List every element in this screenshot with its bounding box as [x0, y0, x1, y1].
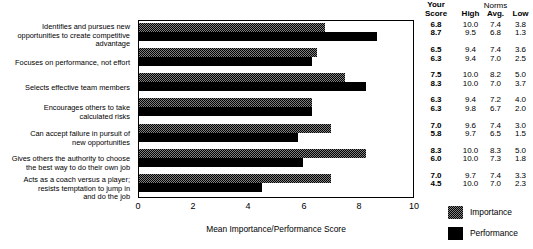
- category-label-2: Selects effective team members: [0, 84, 130, 93]
- cell-norm-low-performance-2: 3.7: [508, 80, 533, 88]
- cell-your-score-performance-2: 8.3: [416, 80, 456, 88]
- bar-importance-4[interactable]: [139, 124, 331, 133]
- cell-norm-avg-performance-5: 7.3: [483, 155, 508, 163]
- bar-group-1: [139, 48, 413, 73]
- category-label-2-line1: Selects effective team members: [0, 84, 130, 93]
- cell-norm-high-performance-3: 9.8: [458, 105, 483, 113]
- table-row: 6.810.07.43.88.79.56.81.3: [416, 21, 533, 46]
- cell-norm-low-performance-1: 2.5: [508, 55, 533, 63]
- cell-norm-avg-performance-4: 6.5: [483, 130, 508, 138]
- cell-norm-avg-performance-6: 7.0: [483, 180, 508, 188]
- cell-your-score-performance-3: 6.3: [416, 105, 456, 113]
- table-row: 6.59.47.43.66.39.47.02.5: [416, 46, 533, 71]
- cell-your-score-performance-5: 6.0: [416, 155, 456, 163]
- category-label-6-line3: and do the job: [0, 193, 130, 202]
- x-tick-0: 0: [126, 201, 150, 211]
- bar-importance-0[interactable]: [139, 23, 325, 32]
- cell-norm-low-performance-0: 1.3: [508, 29, 533, 37]
- x-axis-label: Mean Importance/Performance Score: [138, 224, 414, 234]
- category-label-6: Acts as a coach versus a player; resists…: [0, 176, 130, 202]
- cell-norm-high-performance-5: 10.0: [458, 155, 483, 163]
- category-label-4: Can accept failure in pursuit of new opp…: [0, 130, 130, 147]
- chart-plot-area: [138, 20, 414, 198]
- x-tick-6: 6: [292, 201, 316, 211]
- table-header-avg: Avg.: [483, 9, 508, 18]
- table-row: 7.09.77.43.34.510.07.02.3: [416, 172, 533, 197]
- bar-group-4: [139, 124, 413, 149]
- x-tick-8: 8: [347, 201, 371, 211]
- category-label-1: Focuses on performance, not effort: [0, 59, 130, 68]
- table-header-high: High: [458, 9, 483, 18]
- cell-your-score-performance-4: 5.8: [416, 130, 456, 138]
- category-label-5-line2: the best way to do their own job: [0, 164, 130, 173]
- category-label-3: Encourages others to take calculated ris…: [0, 104, 130, 121]
- cell-your-score-performance-1: 6.3: [416, 55, 456, 63]
- cell-norm-low-performance-6: 2.3: [508, 180, 533, 188]
- bar-importance-3[interactable]: [139, 98, 312, 107]
- bar-performance-0[interactable]: [139, 32, 377, 41]
- category-label-0: Identifies and pursues new opportunities…: [0, 23, 130, 49]
- bar-group-2: [139, 73, 413, 98]
- cell-norm-avg-performance-3: 6.7: [483, 105, 508, 113]
- table-row: 7.510.08.25.08.310.07.03.7: [416, 71, 533, 96]
- cell-norm-avg-performance-1: 7.0: [483, 55, 508, 63]
- cell-norm-low-performance-4: 1.5: [508, 130, 533, 138]
- category-label-1-line1: Focuses on performance, not effort: [0, 59, 130, 68]
- bar-group-5: [139, 149, 413, 174]
- cell-norm-high-performance-2: 10.0: [458, 80, 483, 88]
- category-label-4-line2: new opportunities: [0, 139, 130, 148]
- x-tick-2: 2: [181, 201, 205, 211]
- bar-performance-5[interactable]: [139, 158, 303, 167]
- cell-norm-high-performance-0: 9.5: [458, 29, 483, 37]
- bar-performance-4[interactable]: [139, 133, 298, 142]
- bar-group-6: [139, 174, 413, 199]
- bar-performance-1[interactable]: [139, 57, 312, 66]
- category-label-3-line2: calculated risks: [0, 113, 130, 122]
- table-header-your-score: Your Score: [416, 1, 456, 18]
- bar-importance-6[interactable]: [139, 174, 331, 183]
- cell-norm-high-performance-4: 9.7: [458, 130, 483, 138]
- cell-norm-avg-performance-2: 7.0: [483, 80, 508, 88]
- cell-norm-avg-performance-0: 6.8: [483, 29, 508, 37]
- legend-swatch-performance-icon: [448, 227, 463, 240]
- bar-performance-2[interactable]: [139, 82, 366, 91]
- x-tick-10: 10: [402, 201, 426, 211]
- cell-norm-low-performance-5: 1.8: [508, 155, 533, 163]
- table-header-your-score-line2: Score: [416, 10, 456, 19]
- bar-importance-2[interactable]: [139, 73, 345, 82]
- cell-norm-high-performance-1: 9.4: [458, 55, 483, 63]
- table-header-low: Low: [508, 9, 533, 18]
- legend-swatch-importance-icon: [448, 206, 463, 219]
- x-tick-4: 4: [236, 201, 260, 211]
- bar-importance-1[interactable]: [139, 48, 317, 57]
- legend-label-importance: Importance: [470, 207, 512, 217]
- scores-table: Your Score Norms High Avg. Low 6.810.07.…: [416, 0, 533, 200]
- bar-group-0: [139, 23, 413, 48]
- category-label-list: Identifies and pursues new opportunities…: [0, 20, 134, 198]
- bar-group-3: [139, 98, 413, 123]
- bar-importance-5[interactable]: [139, 149, 366, 158]
- cell-norm-low-performance-3: 2.0: [508, 105, 533, 113]
- table-row: 7.09.67.43.05.89.76.51.5: [416, 122, 533, 147]
- bar-performance-6[interactable]: [139, 183, 262, 192]
- table-row: 8.310.08.35.06.010.07.31.8: [416, 147, 533, 172]
- legend-label-performance: Performance: [470, 228, 518, 238]
- cell-norm-high-performance-6: 10.0: [458, 180, 483, 188]
- cell-your-score-performance-0: 8.7: [416, 29, 456, 37]
- table-row: 6.39.47.24.06.39.86.72.0: [416, 96, 533, 121]
- category-label-5: Gives others the authority to choose the…: [0, 155, 130, 172]
- cell-your-score-performance-6: 4.5: [416, 180, 456, 188]
- bar-performance-3[interactable]: [139, 107, 312, 116]
- category-label-0-line3: advantage: [0, 40, 130, 49]
